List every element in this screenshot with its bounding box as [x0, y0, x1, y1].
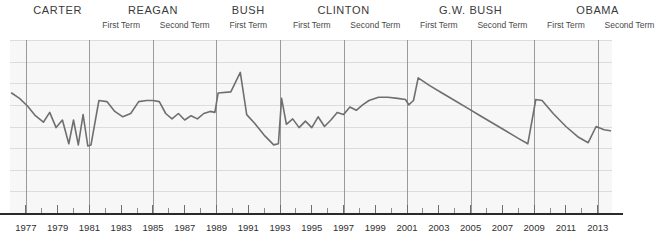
axis-tick-minor [105, 208, 106, 213]
year-label: 1985 [135, 222, 171, 233]
axis-tick-minor [454, 208, 455, 213]
axis-tick-major [89, 205, 90, 213]
axis-tick-major [184, 205, 185, 213]
axis-tick-major [311, 205, 312, 213]
administration-name: CLINTON [280, 4, 407, 16]
line-chart-svg [10, 40, 612, 213]
axis-tick-major [57, 205, 58, 213]
axis-tick-minor [581, 208, 582, 213]
axis-tick-minor [137, 208, 138, 213]
year-label: 1997 [326, 222, 362, 233]
term-label: Second Term [344, 20, 408, 30]
term-label: First Term [89, 20, 153, 30]
axis-tick-minor [327, 208, 328, 213]
term-label: First Term [407, 20, 471, 30]
axis-tick-minor [232, 208, 233, 213]
axis-tick-minor [550, 208, 551, 213]
term-label: Second Term [153, 20, 217, 30]
administration-name: REAGAN [89, 4, 216, 16]
year-label: 2005 [453, 222, 489, 233]
footer-caption-sliver [0, 245, 623, 249]
axis-tick-major [534, 205, 535, 213]
axis-tick-minor [295, 208, 296, 213]
year-label: 1989 [198, 222, 234, 233]
year-label: 1999 [357, 222, 393, 233]
year-label: 2011 [548, 222, 584, 233]
axis-tick-major [280, 205, 281, 213]
axis-tick-minor [486, 208, 487, 213]
year-label: 1993 [262, 222, 298, 233]
year-label: 1981 [71, 222, 107, 233]
axis-tick-major [438, 205, 439, 213]
axis-tick-major [407, 205, 408, 213]
year-label: 1995 [294, 222, 330, 233]
axis-tick-minor [518, 208, 519, 213]
axis-tick-major [216, 205, 217, 213]
term-label: First Term [280, 20, 344, 30]
axis-tick-major [121, 205, 122, 213]
x-axis-line [0, 213, 623, 215]
year-label: 2007 [484, 222, 520, 233]
year-label: 1991 [230, 222, 266, 233]
axis-tick-major [152, 205, 153, 213]
year-label: 2009 [516, 222, 552, 233]
administration-name: BUSH [216, 4, 280, 16]
year-label: 1983 [103, 222, 139, 233]
axis-tick-major [248, 205, 249, 213]
administration-header: CARTERREAGANFirst TermSecond TermBUSHCLI… [0, 0, 623, 36]
administration-name: CARTER [26, 4, 90, 16]
term-label: Second Term [598, 20, 659, 30]
axis-tick-major [565, 205, 566, 213]
term-label: First Term [216, 20, 280, 30]
axis-tick-major [343, 205, 344, 213]
axis-tick-minor [359, 208, 360, 213]
axis-tick-minor [422, 208, 423, 213]
axis-tick-minor [73, 208, 74, 213]
plot-area [10, 40, 612, 213]
year-label: 2013 [580, 222, 616, 233]
year-label: 2003 [421, 222, 457, 233]
axis-tick-minor [168, 208, 169, 213]
year-label: 1979 [40, 222, 76, 233]
term-label: First Term [534, 20, 598, 30]
axis-tick-minor [200, 208, 201, 213]
year-label: 1987 [167, 222, 203, 233]
axis-tick-minor [264, 208, 265, 213]
administration-name: G.W. BUSH [407, 4, 534, 16]
axis-tick-minor [391, 208, 392, 213]
term-label: Second Term [471, 20, 535, 30]
axis-tick-major [375, 205, 376, 213]
axis-tick-major [25, 205, 26, 213]
axis-tick-major [502, 205, 503, 213]
year-label: 1977 [8, 222, 44, 233]
axis-tick-major [470, 205, 471, 213]
axis-tick-major [597, 205, 598, 213]
year-label: 2001 [389, 222, 425, 233]
administration-name: OBAMA [534, 4, 659, 16]
axis-tick-minor [41, 208, 42, 213]
